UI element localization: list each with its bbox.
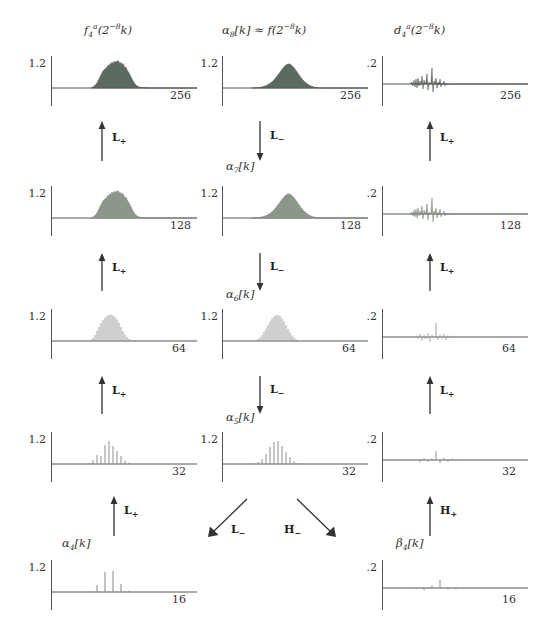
arrow-up-L-plus-4 <box>108 496 120 536</box>
arrow-down-L-minus-2 <box>254 253 266 291</box>
xtick-r2c3: 128 <box>500 220 521 231</box>
oplabel-L-minus-1: L− <box>270 130 284 144</box>
ytick-r2c1: 1.2 <box>18 188 46 199</box>
arrow-up-L-plus-2 <box>96 253 108 291</box>
title-left-f4a: f4a(2−8k) <box>84 23 132 39</box>
xtick-r4c1: 32 <box>172 466 186 477</box>
xtick-r1c2: 256 <box>340 90 361 101</box>
xtick-r1c3: 256 <box>500 90 521 101</box>
oplabel-L-plus-4: L+ <box>124 505 138 519</box>
oplabel-L-plus-1: L+ <box>112 132 126 146</box>
oplabel-H-minus-diag: H− <box>284 524 301 538</box>
ytick-r1c2: 1.2 <box>190 58 218 69</box>
ytick-r3c2: 1.2 <box>190 311 218 322</box>
ytick-r5c1: 1.2 <box>18 562 46 573</box>
ytick-r4c3: .2 <box>355 434 377 445</box>
arrow-up-L-plus-3 <box>96 376 108 414</box>
ytick-r4c2: 1.2 <box>190 434 218 445</box>
ytick-r2c3: .2 <box>355 188 377 199</box>
arrow-down-L-minus-1 <box>254 121 266 161</box>
oplabel-L-plus-2: L+ <box>112 262 126 276</box>
wavelet-cascade-figure: f4a(2−8k) α8[k] ≈ f(2−8k) d4a(2−8k) 1.2 … <box>0 0 546 639</box>
ytick-r4c1: 1.2 <box>18 434 46 445</box>
arrow-up-H-plus <box>424 496 436 536</box>
label-alpha6: α6[k] <box>226 289 255 303</box>
arrow-up-L-plus-1 <box>96 121 108 161</box>
xtick-r2c1: 128 <box>170 220 191 231</box>
xtick-r3c2: 64 <box>342 343 356 354</box>
oplabel-L-minus-3: L− <box>270 384 284 398</box>
arrow-diag-H-minus <box>295 497 339 539</box>
xtick-r4c2: 32 <box>342 466 356 477</box>
arrow-up-L-plus-r2 <box>424 253 436 291</box>
oplabel-L-minus-2: L− <box>270 261 284 275</box>
xtick-r3c1: 64 <box>172 343 186 354</box>
label-alpha7: α7[k] <box>226 161 255 175</box>
ytick-r1c1: 1.2 <box>18 58 46 69</box>
oplabel-H-plus: H+ <box>440 505 457 519</box>
xtick-r4c3: 32 <box>502 466 516 477</box>
arrow-up-L-plus-r1 <box>424 121 436 161</box>
ytick-r1c3: .2 <box>355 58 377 69</box>
ytick-r3c1: 1.2 <box>18 311 46 322</box>
label-alpha4: α4[k] <box>62 538 91 552</box>
ytick-r3c3: .2 <box>355 311 377 322</box>
ytick-r2c2: 1.2 <box>190 188 218 199</box>
title-middle-alpha8: α8[k] ≈ f(2−8k) <box>222 23 306 39</box>
oplabel-L-minus-diag: L− <box>231 524 245 538</box>
arrow-down-L-minus-3 <box>254 376 266 414</box>
label-beta4: β4[k] <box>396 538 423 552</box>
label-alpha5: α5[k] <box>226 412 255 426</box>
xtick-r1c1: 256 <box>170 90 191 101</box>
oplabel-L-plus-r2: L+ <box>440 262 454 276</box>
oplabel-L-plus-3: L+ <box>112 385 126 399</box>
oplabel-L-plus-r1: L+ <box>440 132 454 146</box>
xtick-r2c2: 128 <box>340 220 361 231</box>
arrow-up-L-plus-r3 <box>424 376 436 414</box>
xtick-r5c3: 16 <box>502 594 516 605</box>
title-right-d4a: d4a(2−8k) <box>394 23 445 39</box>
ytick-r5c3: .2 <box>355 562 377 573</box>
oplabel-L-plus-r3: L+ <box>440 385 454 399</box>
xtick-r5c1: 16 <box>172 594 186 605</box>
xtick-r3c3: 64 <box>502 343 516 354</box>
